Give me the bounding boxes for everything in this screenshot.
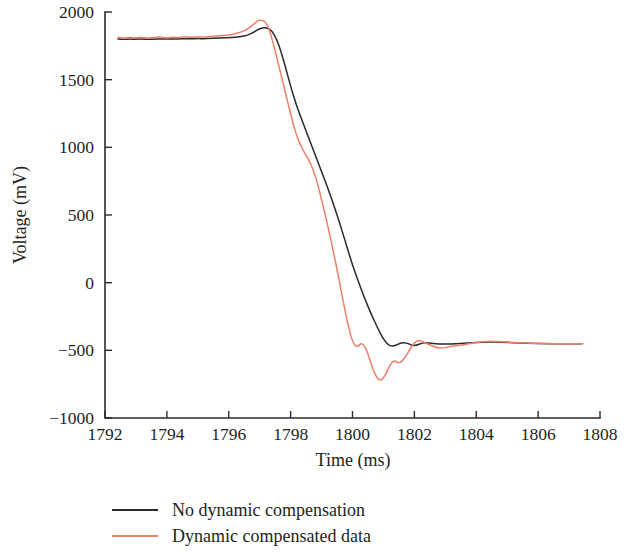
line-chart: 179217941796179818001802180418061808 −10…	[0, 0, 638, 554]
chart-figure: 179217941796179818001802180418061808 −10…	[0, 0, 638, 554]
y-axis-tick-label: 1500	[59, 70, 94, 90]
y-axis-tick-label: 2000	[59, 2, 94, 22]
y-axis-ticks	[105, 12, 112, 418]
series-no-dynamic-compensation	[118, 28, 581, 346]
x-axis-tick-labels: 179217941796179818001802180418061808	[88, 424, 618, 444]
y-axis-tick-label: 0	[85, 273, 94, 293]
y-axis-tick-label: 500	[68, 205, 95, 225]
y-axis-tick-label: −1000	[49, 408, 94, 428]
x-axis-title: Time (ms)	[316, 450, 391, 471]
x-axis-tick-label: 1804	[459, 424, 494, 444]
y-axis-tick-label: −500	[58, 340, 94, 360]
x-axis-ticks	[105, 411, 600, 418]
legend-label-no-dynamic-compensation: No dynamic compensation	[172, 500, 365, 520]
chart-series	[118, 20, 583, 380]
x-axis-tick-label: 1798	[273, 424, 308, 444]
x-axis-tick-label: 1796	[211, 424, 246, 444]
chart-legend: No dynamic compensation Dynamic compensa…	[112, 500, 371, 546]
x-axis-tick-label: 1806	[521, 424, 556, 444]
chart-axes: 179217941796179818001802180418061808 −10…	[49, 2, 618, 444]
x-axis-tick-label: 1808	[583, 424, 618, 444]
x-axis-tick-label: 1802	[397, 424, 432, 444]
x-axis-tick-label: 1800	[335, 424, 370, 444]
x-axis-tick-label: 1794	[149, 424, 184, 444]
legend-label-dynamic-compensated-data: Dynamic compensated data	[172, 526, 371, 546]
y-axis-title: Voltage (mV)	[10, 166, 31, 264]
series-dynamic-compensated-data	[118, 20, 583, 380]
y-axis-tick-labels: −1000−5000500100015002000	[49, 2, 94, 428]
y-axis-tick-label: 1000	[59, 137, 94, 157]
axis-lines	[105, 12, 600, 418]
